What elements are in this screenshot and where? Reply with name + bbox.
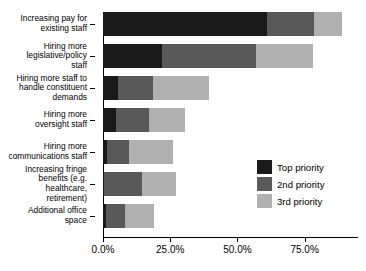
bar-row (103, 204, 154, 228)
y-axis-tick-label: Increasing pay for existing staff (0, 14, 87, 33)
bar-segment-3rd-priority (314, 12, 342, 36)
x-axis-tick-mark (103, 238, 104, 242)
y-axis-tick-label: Increasing fringe benefits (e.g. healthc… (0, 165, 87, 203)
bar-segment-2nd-priority (104, 172, 142, 196)
legend-label: 2nd priority (277, 179, 324, 190)
y-axis-tick-label: Hiring more oversight staff (0, 110, 87, 129)
y-axis-tick-mark (90, 24, 95, 25)
y-axis-tick-mark (90, 184, 95, 185)
y-axis-tick-mark (90, 56, 95, 57)
bar-segment-2nd-priority (107, 140, 129, 164)
bar-segment-2nd-priority (118, 76, 153, 100)
bar-segment-top-priority (103, 108, 116, 132)
bar-segment-top-priority (103, 76, 118, 100)
legend-label: Top priority (277, 162, 324, 173)
x-axis-tick-label: 75.0% (290, 244, 318, 255)
y-axis-tick-label: Hiring more legislative/policy staff (0, 42, 87, 71)
chart-legend: Top priority2nd priority3rd priority (257, 160, 324, 208)
legend-swatch (257, 160, 272, 174)
bar-row (103, 140, 173, 164)
legend-entry: Top priority (257, 160, 324, 174)
legend-entry: 3rd priority (257, 194, 324, 208)
legend-swatch (257, 177, 272, 191)
y-axis-tick-label: Hiring more staff to handle constituent … (0, 74, 87, 103)
bar-segment-3rd-priority (129, 140, 173, 164)
bar-row (103, 108, 185, 132)
legend-label: 3rd priority (277, 196, 322, 207)
y-axis-tick-mark (90, 216, 95, 217)
y-axis-category-labels: Increasing pay for existing staffHiring … (0, 12, 95, 236)
legend-swatch (257, 194, 272, 208)
bar-row (103, 172, 176, 196)
bar-row (103, 44, 313, 68)
x-axis-tick-mark (170, 238, 171, 242)
legend-entry: 2nd priority (257, 177, 324, 191)
bar-segment-2nd-priority (116, 108, 148, 132)
y-axis-tick-mark (90, 88, 95, 89)
bar-segment-2nd-priority (106, 204, 125, 228)
bar-segment-2nd-priority (162, 44, 256, 68)
y-axis-tick-label: Additional office space (0, 206, 87, 225)
x-axis-tick-label: 25.0% (156, 244, 184, 255)
x-axis-tick-mark (237, 238, 238, 242)
x-axis-tick-mark (305, 238, 306, 242)
bar-row (103, 12, 342, 36)
bar-segment-top-priority (103, 44, 162, 68)
x-axis-tick-label: 50.0% (223, 244, 251, 255)
x-axis-tick-label: 0.0% (92, 244, 115, 255)
bar-row (103, 76, 209, 100)
y-axis-tick-label: Hiring more communications staff (0, 142, 87, 161)
bar-segment-3rd-priority (142, 172, 176, 196)
x-axis-line (103, 237, 358, 238)
stacked-bar-chart: Increasing pay for existing staffHiring … (0, 0, 366, 271)
y-axis-tick-mark (90, 120, 95, 121)
y-axis-tick-mark (90, 152, 95, 153)
bar-segment-3rd-priority (149, 108, 185, 132)
bar-segment-3rd-priority (125, 204, 155, 228)
bar-segment-3rd-priority (256, 44, 312, 68)
bar-segment-top-priority (103, 12, 267, 36)
bar-segment-2nd-priority (267, 12, 314, 36)
bar-segment-3rd-priority (153, 76, 209, 100)
